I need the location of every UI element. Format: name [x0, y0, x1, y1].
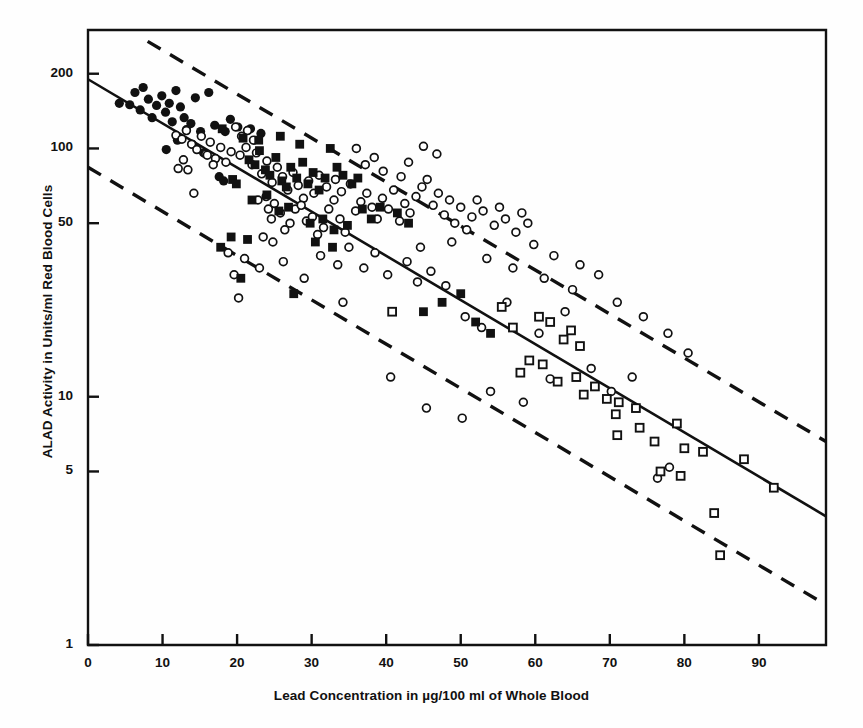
x-tick-label: 0: [58, 655, 118, 670]
data-point-filled-circle: [115, 99, 124, 108]
data-point-filled-circle: [152, 101, 161, 110]
data-point-open-circle: [300, 274, 308, 282]
data-point-open-circle: [387, 373, 395, 381]
data-point-open-square: [603, 395, 611, 403]
data-point-filled-square: [311, 238, 320, 247]
data-point-open-circle: [512, 228, 520, 236]
data-point-open-circle: [530, 241, 538, 249]
data-point-open-circle: [338, 188, 346, 196]
data-point-open-square: [612, 410, 620, 418]
data-point-open-square: [525, 357, 533, 365]
data-point-open-circle: [561, 308, 569, 316]
data-point-open-square: [651, 438, 659, 446]
data-point-open-circle: [384, 271, 392, 279]
data-point-open-circle: [323, 183, 331, 191]
x-tick-label: 40: [356, 655, 416, 670]
data-point-open-circle: [361, 161, 369, 169]
data-point-open-circle: [263, 157, 271, 165]
y-tick-label: 1: [0, 636, 73, 651]
trend-lines: [88, 41, 826, 605]
data-point-open-circle: [273, 163, 281, 171]
data-point-open-circle: [490, 221, 498, 229]
data-point-open-square: [636, 424, 644, 432]
data-point-open-circle: [236, 151, 244, 159]
data-point-open-circle: [227, 148, 235, 156]
data-point-open-circle: [519, 398, 527, 406]
data-point-open-circle: [178, 135, 186, 143]
data-point-open-circle: [279, 258, 287, 266]
data-point-open-circle: [330, 196, 338, 204]
data-point-open-square: [554, 378, 562, 386]
data-point-open-circle: [297, 201, 305, 209]
data-point-open-circle: [379, 194, 387, 202]
data-point-open-circle: [174, 165, 182, 173]
x-tick-label: 20: [207, 655, 267, 670]
data-point-open-square: [572, 373, 580, 381]
y-tick-label: 100: [0, 139, 73, 154]
data-point-filled-square: [274, 207, 283, 216]
data-point-filled-square: [358, 205, 367, 214]
data-point-open-square: [680, 444, 688, 452]
data-point-open-circle: [190, 189, 198, 197]
data-point-filled-square: [239, 134, 248, 143]
data-point-open-square: [580, 391, 588, 399]
data-points: [115, 83, 778, 559]
data-point-filled-square: [284, 203, 293, 212]
data-point-open-square: [546, 318, 554, 326]
data-point-filled-square: [328, 243, 337, 252]
data-point-filled-square: [254, 136, 263, 145]
data-point-open-circle: [370, 154, 378, 162]
data-point-open-circle: [180, 156, 188, 164]
data-point-open-circle: [569, 286, 577, 294]
y-tick-label: 10: [0, 388, 73, 403]
data-point-open-circle: [509, 264, 517, 272]
data-point-open-circle: [256, 264, 264, 272]
data-point-open-circle: [451, 219, 459, 227]
data-point-open-circle: [224, 249, 232, 257]
data-point-open-circle: [242, 143, 250, 151]
data-point-open-circle: [357, 198, 365, 206]
data-point-filled-square: [376, 203, 385, 212]
data-point-filled-square: [248, 196, 257, 205]
data-point-open-circle: [473, 196, 481, 204]
data-point-filled-circle: [219, 176, 228, 185]
data-point-filled-square: [419, 307, 428, 316]
data-point-open-square: [657, 468, 665, 476]
data-point-open-circle: [479, 207, 487, 215]
data-point-filled-square: [295, 140, 304, 149]
lower-confidence-band: [88, 167, 826, 605]
data-point-open-circle: [420, 142, 428, 150]
data-point-filled-square: [343, 221, 352, 230]
data-point-open-circle: [206, 138, 214, 146]
data-point-filled-square: [263, 191, 272, 200]
data-point-filled-circle: [176, 102, 185, 111]
data-point-filled-square: [292, 174, 301, 183]
data-point-open-circle: [550, 252, 558, 260]
data-point-filled-square: [321, 174, 330, 183]
data-point-open-circle: [222, 158, 230, 166]
data-point-filled-circle: [130, 88, 139, 97]
data-point-filled-square: [232, 179, 241, 188]
data-point-open-square: [516, 369, 524, 377]
data-point-open-circle: [406, 209, 414, 217]
data-point-open-circle: [317, 252, 325, 260]
data-point-open-square: [677, 472, 685, 480]
data-point-open-circle: [385, 205, 393, 213]
data-point-filled-square: [326, 144, 335, 153]
data-point-filled-square: [271, 153, 280, 162]
data-point-open-square: [539, 360, 547, 368]
data-point-open-circle: [209, 161, 217, 169]
data-point-open-square: [613, 431, 621, 439]
data-point-open-circle: [379, 167, 387, 175]
data-point-filled-circle: [161, 108, 170, 117]
data-point-open-square: [740, 455, 748, 463]
x-tick-label: 60: [505, 655, 565, 670]
data-point-filled-square: [306, 219, 315, 228]
data-point-open-circle: [294, 181, 302, 189]
data-point-open-square: [388, 308, 396, 316]
axis-ticks: [88, 74, 759, 645]
figure-container: 1510501002000102030405060708090 ALAD Act…: [0, 0, 863, 728]
data-point-filled-circle: [191, 93, 200, 102]
data-point-open-circle: [496, 203, 504, 211]
x-tick-label: 70: [580, 655, 640, 670]
